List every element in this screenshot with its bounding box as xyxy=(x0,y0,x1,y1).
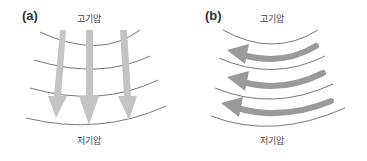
high-pressure-label-b: 고기압 xyxy=(260,12,284,25)
isobar-4 xyxy=(26,106,166,125)
arrow-left-3-shaft xyxy=(237,101,331,113)
arrow-down-2 xyxy=(79,30,99,125)
arrow-left-1-shaft xyxy=(243,46,316,59)
arrow-left-1-head xyxy=(227,44,249,64)
arrow-left-2-head xyxy=(227,71,249,91)
low-pressure-label-a: 저기압 xyxy=(77,134,101,147)
panel-label-a: (a) xyxy=(22,8,38,23)
left-arrows xyxy=(237,46,331,113)
down-arrows xyxy=(48,30,137,125)
panel-label-b: (b) xyxy=(205,8,222,23)
arrow-down-1 xyxy=(48,30,67,118)
isobar-1 xyxy=(223,30,318,44)
isobar-3 xyxy=(30,80,158,96)
arrow-down-3 xyxy=(118,30,137,120)
arrow-left-2-shaft xyxy=(243,73,323,86)
panel-a: (a) 고기압 저기압 xyxy=(0,0,183,161)
arrow-left-3-head xyxy=(221,97,243,117)
arrow-heads xyxy=(221,44,249,117)
low-pressure-label-b: 저기압 xyxy=(260,134,284,147)
high-pressure-label-a: 고기압 xyxy=(77,12,101,25)
panel-b: (b) 고기압 저기압 xyxy=(183,0,367,161)
isobars xyxy=(26,30,166,125)
